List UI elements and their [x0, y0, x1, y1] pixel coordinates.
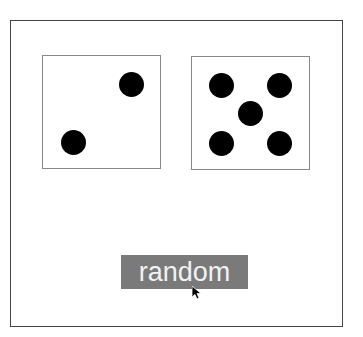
die-pip — [238, 101, 263, 126]
die-pip — [119, 72, 144, 97]
die-left — [42, 55, 161, 169]
die-pip — [267, 131, 292, 156]
random-button[interactable]: random — [121, 255, 248, 289]
die-pip — [61, 130, 86, 155]
die-right — [191, 56, 310, 170]
die-pip — [209, 73, 234, 98]
die-pip — [209, 131, 234, 156]
mouse-cursor-icon — [192, 286, 202, 300]
die-pip — [267, 73, 292, 98]
